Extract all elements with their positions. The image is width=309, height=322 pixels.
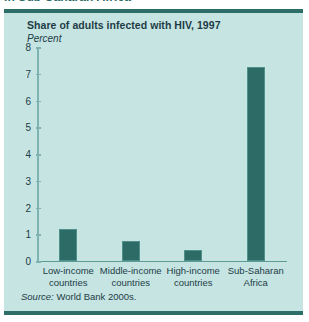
bar-3 [184,250,202,261]
category-label-3: High-incomecountries [162,265,225,289]
panel-top-rule [4,9,303,13]
y-axis-tick-label: 7 [15,70,31,80]
page-heading-strip: in Sub-Saharan Africa [0,0,309,9]
category-label-line: countries [37,277,100,289]
category-label-line: countries [162,277,225,289]
category-label-line: Africa [225,277,288,289]
bar-2 [122,241,140,261]
y-axis-tick [36,181,41,183]
y-axis-tick-label: 8 [15,43,31,53]
category-label-1: Low-incomecountries [37,265,100,289]
category-label-2: Middle-incomecountries [100,265,163,289]
y-axis-tick-label: 0 [15,257,31,267]
source-text: World Bank 2000s. [54,291,137,302]
category-label-line: countries [100,277,163,289]
y-axis-tick-label: 5 [15,123,31,133]
panel-bottom-rule [4,311,303,315]
y-axis-tick [36,154,41,156]
category-label-line: High-income [162,265,225,277]
y-axis-tick-label: 1 [15,230,31,240]
bar-1 [59,229,77,261]
y-axis-tick [36,74,41,76]
y-axis-tick-label: 3 [15,177,31,187]
chart-title: Share of adults infected with HIV, 1997 [27,19,221,31]
bar-4 [247,67,265,261]
y-axis-tick-label: 6 [15,97,31,107]
category-label-line: Low-income [37,265,100,277]
chart-source: Source: World Bank 2000s. [21,291,136,302]
page-heading-text: in Sub-Saharan Africa [4,0,131,4]
y-axis-tick-label: 4 [15,150,31,160]
y-axis-tick-label: 2 [15,204,31,214]
category-label-4: Sub-SaharanAfrica [225,265,288,289]
chart-subtitle: Percent [27,33,61,44]
y-axis-tick [36,208,41,210]
y-axis-tick [36,234,41,236]
y-axis-tick [36,101,41,103]
y-axis-tick [36,127,41,129]
category-label-line: Sub-Saharan [225,265,288,277]
figure-panel: Share of adults infected with HIV, 1997 … [4,9,303,315]
y-axis-tick [36,47,41,49]
category-label-line: Middle-income [100,265,163,277]
source-prefix: Source: [21,291,54,302]
y-axis-tick [36,261,41,263]
plot-area: 012345678 [37,47,287,261]
